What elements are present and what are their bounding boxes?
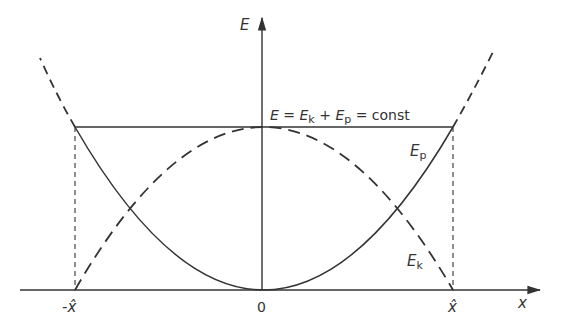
ek-curve (75, 127, 453, 290)
ep-curve-outside-right (453, 52, 493, 127)
x-axis-label: x (517, 294, 527, 312)
ep-label: Ep (410, 142, 426, 162)
energy-diagram: E x -x̂ 0 x̂ E = Ek + Ep = const Ep Ek (0, 0, 567, 329)
tick-neg-amplitude: -x̂ (62, 298, 76, 316)
tick-pos-amplitude: x̂ (447, 298, 457, 316)
tick-zero: 0 (257, 299, 266, 315)
ep-curve-outside-left (40, 58, 75, 127)
equation-label: E = Ek + Ep = const (270, 107, 410, 126)
ek-label: Ek (407, 252, 423, 272)
e-axis-label: E (240, 16, 250, 34)
